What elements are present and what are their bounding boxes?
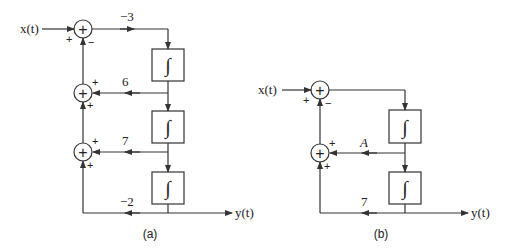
caption-b: (b) [374,227,389,241]
sum1-bottom-sign-a: − [88,36,94,48]
diagram-svg: + + + ∫ ∫ ∫ x(t) y(t) −3 6 7 −2 + − + + … [0,0,513,252]
integrator-2-symbol-a: ∫ [163,116,172,140]
sum2-bottom-sign-b: + [324,160,330,172]
block-diagram-figure: + + + ∫ ∫ ∫ x(t) y(t) −3 6 7 −2 + − + + … [0,0,513,252]
caption-a: (a) [143,227,158,241]
sum2-bottom-sign-a: + [87,99,93,111]
integrator-3-symbol-a: ∫ [163,177,172,201]
diagram-a [42,20,232,213]
input-label-b: x(t) [258,82,277,97]
integrator-1-symbol-b: ∫ [400,116,409,140]
sum1-bottom-sign-b: − [325,97,331,109]
sum1-plus-symbol-b: + [315,82,324,99]
sum2-right-sign-a: + [92,76,98,88]
diagram-b [282,81,468,213]
gain-label-6: 6 [122,74,129,89]
gain-label-A: A [359,135,368,150]
gain-label-7-b: 7 [361,194,368,209]
sum2-right-sign-b: + [329,137,335,149]
integrator-2-symbol-b: ∫ [400,177,409,201]
sum3-bottom-sign-a: + [87,159,93,171]
integrator-1-symbol-a: ∫ [163,54,172,78]
gain-label-minus3: −3 [120,9,134,24]
sum1-plus-symbol-a: + [78,21,87,38]
output-label-b: y(t) [471,205,490,220]
input-label-a: x(t) [20,21,39,36]
output-label-a: y(t) [235,205,254,220]
gain-label-7-a: 7 [122,133,129,148]
sum1-left-sign-b: + [303,94,309,106]
sum3-right-sign-a: + [92,135,98,147]
gain-label-minus2: −2 [120,194,134,209]
sum1-left-sign-a: + [66,33,72,45]
